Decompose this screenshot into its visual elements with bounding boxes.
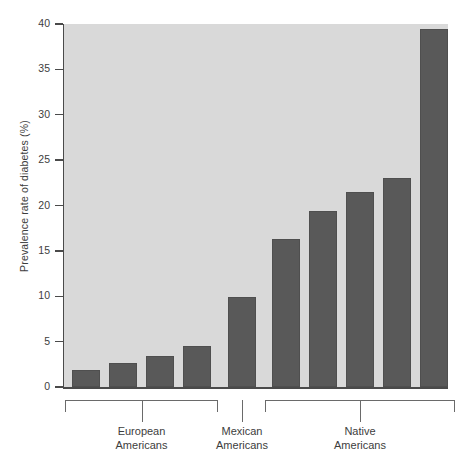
- group-bracket-stem: [360, 400, 361, 422]
- group-bracket-stem: [142, 400, 143, 422]
- bar: [72, 370, 100, 387]
- group-label-line-1: Native: [290, 424, 430, 438]
- y-axis-title: Prevalence rate of diabetes (%): [13, 1, 35, 391]
- bar: [183, 346, 211, 387]
- y-axis-tick: [55, 23, 63, 24]
- bar: [420, 29, 448, 387]
- y-axis-tick: [55, 159, 63, 160]
- y-axis-tick-label: 10: [10, 290, 50, 301]
- group-tick: [242, 400, 243, 422]
- y-axis-tick: [55, 69, 63, 70]
- y-axis-tick: [55, 250, 63, 251]
- plot-area: [64, 24, 448, 387]
- y-axis-tick: [55, 114, 63, 115]
- group-label-line-2: Americans: [290, 438, 430, 452]
- bar: [228, 297, 256, 387]
- bar: [109, 363, 137, 388]
- y-axis-tick: [55, 296, 63, 297]
- bar: [309, 211, 337, 387]
- y-axis-tick-label: 40: [10, 18, 50, 29]
- diabetes-prevalence-bar-chart: Prevalence rate of diabetes (%) 05101520…: [0, 0, 460, 463]
- bar: [383, 178, 411, 387]
- group-label: NativeAmericans: [290, 424, 430, 452]
- y-axis-tick-label: 30: [10, 109, 50, 120]
- bar: [146, 356, 174, 387]
- group-brackets: EuropeanAmericansMexicanAmericansNativeA…: [0, 388, 460, 463]
- y-axis-tick-label: 20: [10, 200, 50, 211]
- y-axis-tick-label: 15: [10, 245, 50, 256]
- y-axis-tick-label: 35: [10, 63, 50, 74]
- y-axis-tick: [55, 205, 63, 206]
- y-axis-tick: [55, 341, 63, 342]
- y-axis-tick-label: 5: [10, 336, 50, 347]
- bar: [272, 239, 300, 387]
- y-axis-tick-label: 25: [10, 154, 50, 165]
- bar: [346, 192, 374, 387]
